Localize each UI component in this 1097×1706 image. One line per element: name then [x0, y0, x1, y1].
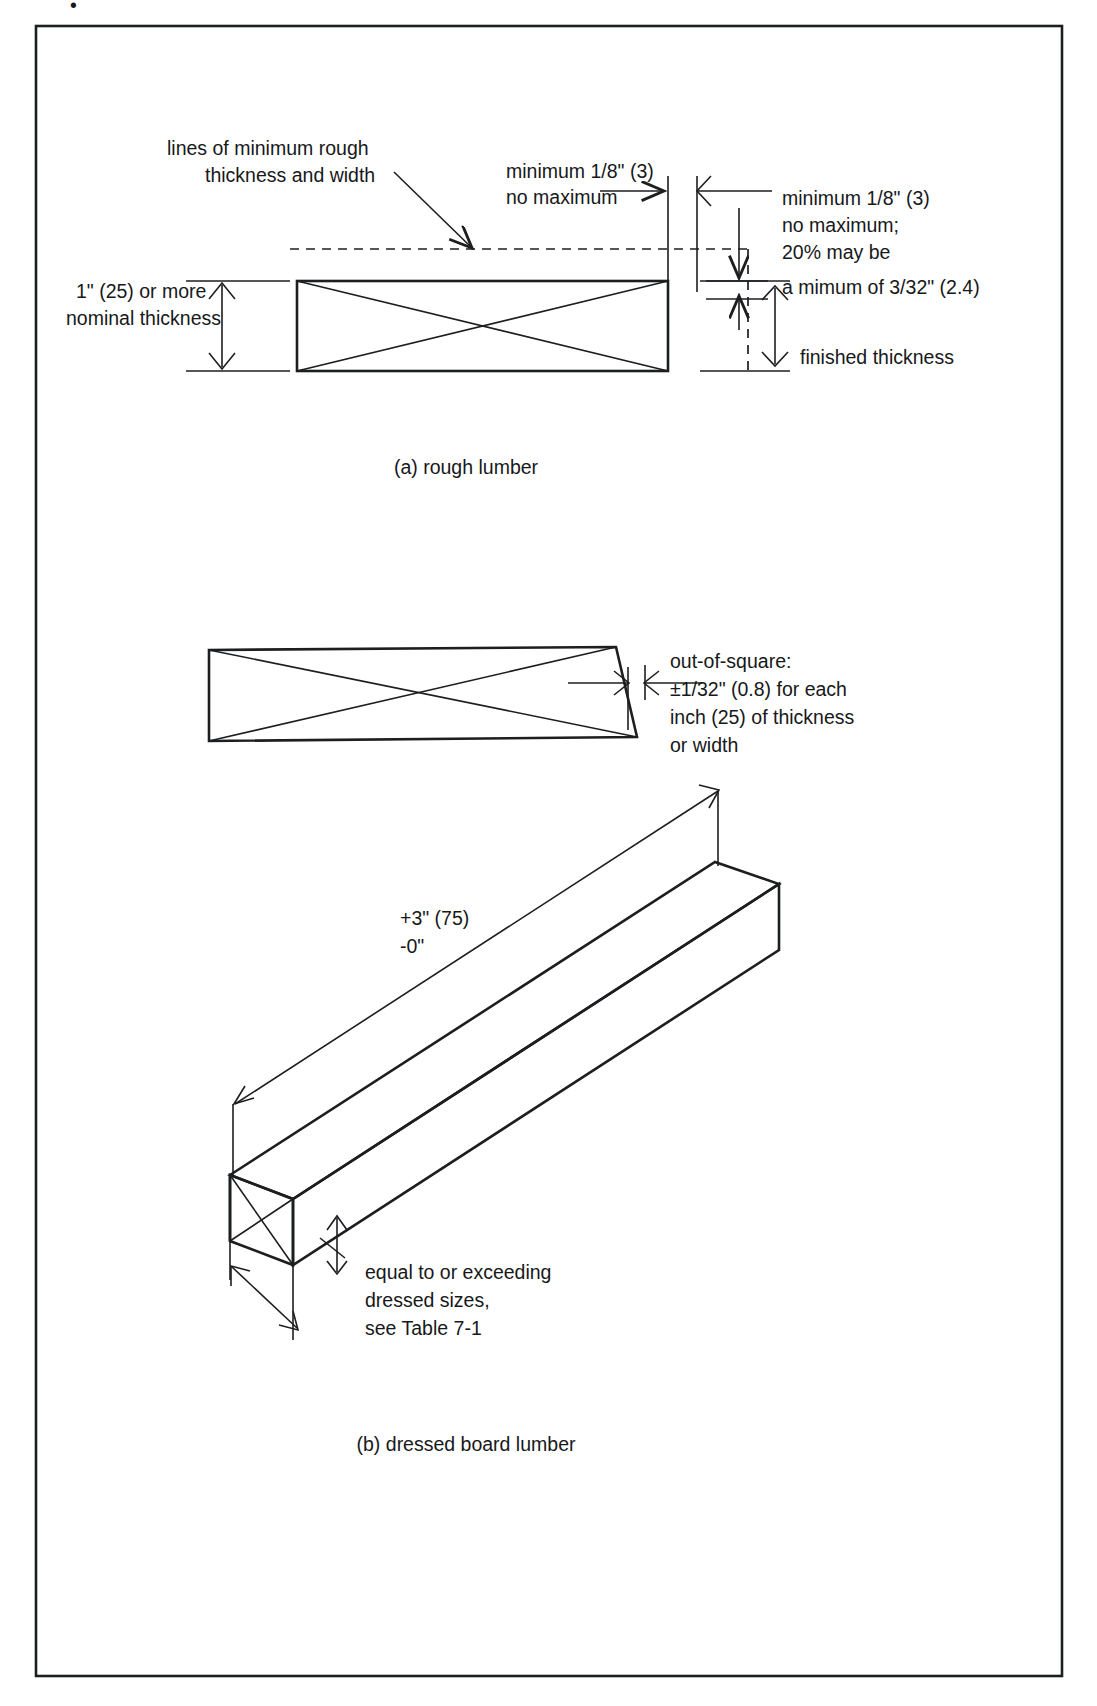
right-label-line2: no maximum; [782, 214, 899, 236]
out-of-square-line4: or width [670, 734, 738, 756]
dressed-size-line2: dressed sizes, [365, 1289, 490, 1311]
top-gap-label-line1: minimum 1/8" (3) [506, 160, 654, 182]
length-arrowhead-bottom [234, 1086, 254, 1104]
right-label-line1: minimum 1/8" (3) [782, 187, 930, 209]
top-gap-label-line2: no maximum [506, 186, 618, 208]
left-label-line1: 1" (25) or more [76, 280, 206, 302]
dressed-board-top-face [230, 862, 779, 1199]
out-of-square-line3: inch (25) of thickness [670, 706, 855, 728]
dressed-width-dim-line [232, 1267, 297, 1328]
dressed-size-line1: equal to or exceeding [365, 1261, 551, 1283]
figure-border [36, 26, 1062, 1676]
title-fragment: • [70, 0, 77, 16]
dressed-size-line3: see Table 7-1 [365, 1317, 482, 1339]
lumber-tolerance-figure: lines of minimum rough thickness and wid… [0, 0, 1097, 1706]
out-of-square-line2: ±1/32" (0.8) for each [670, 678, 847, 700]
dressed-end-diagonal-2 [230, 1199, 293, 1241]
left-label-line2: nominal thickness [66, 307, 221, 329]
callout-label-line1: lines of minimum rough [167, 137, 369, 159]
skew-board-diagonal-1 [209, 650, 637, 737]
length-tolerance-line2: -0" [400, 935, 424, 957]
out-of-square-line1: out-of-square: [670, 650, 791, 672]
right-label-line3: 20% may be [782, 241, 890, 263]
skew-board-diagonal-2 [209, 647, 616, 741]
right-label-line4: a mimum of 3/32" (2.4) [782, 276, 980, 298]
length-dim-line [235, 791, 718, 1104]
panel-a-caption: (a) rough lumber [394, 456, 539, 478]
dressed-board-side-face [293, 884, 779, 1265]
finished-thickness-label: finished thickness [800, 346, 954, 368]
length-tolerance-line1: +3" (75) [400, 907, 469, 929]
figure-page: lines of minimum rough thickness and wid… [0, 0, 1097, 1706]
size-label-leader [320, 1238, 345, 1258]
callout-leader-line [394, 172, 472, 248]
callout-label-line2: thickness and width [205, 164, 375, 186]
panel-b-caption: (b) dressed board lumber [357, 1433, 576, 1455]
